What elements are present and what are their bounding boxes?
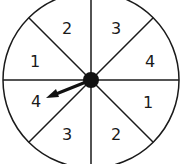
section-label-bottom-left: 3 bbox=[62, 125, 72, 144]
section-label-left-upper: 1 bbox=[30, 52, 40, 71]
spinner: 3 4 1 2 3 4 1 2 bbox=[0, 0, 182, 164]
section-label-bottom-right: 2 bbox=[111, 125, 121, 144]
section-label-right-lower: 1 bbox=[143, 93, 153, 112]
section-label-right-upper: 4 bbox=[145, 52, 155, 71]
section-label-top-left: 2 bbox=[62, 19, 72, 38]
section-label-left-lower: 4 bbox=[31, 92, 41, 111]
spinner-hub bbox=[83, 72, 99, 88]
section-label-top-right: 3 bbox=[111, 19, 121, 38]
